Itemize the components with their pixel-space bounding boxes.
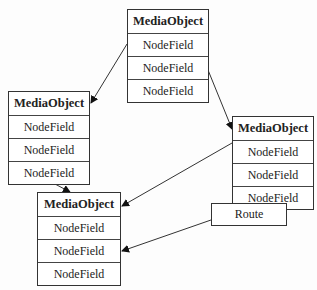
- edge-route-to-d: [122, 220, 211, 251]
- edge-a-to-c: [208, 70, 232, 129]
- node-field: NodeField: [38, 239, 120, 262]
- node-field: NodeField: [38, 216, 120, 239]
- node-field: NodeField: [128, 56, 208, 79]
- node-field: NodeField: [9, 115, 89, 138]
- node-field: NodeField: [38, 262, 120, 285]
- node-title: MediaObject: [233, 117, 313, 140]
- node-field: NodeField: [9, 138, 89, 161]
- media-object-d: MediaObject NodeField NodeField NodeFiel…: [37, 192, 121, 286]
- edge-b-to-d: [55, 184, 70, 192]
- node-title: MediaObject: [38, 193, 120, 216]
- node-title: MediaObject: [9, 92, 89, 115]
- node-field: NodeField: [128, 33, 208, 56]
- node-field: NodeField: [9, 161, 89, 184]
- node-title: MediaObject: [128, 10, 208, 33]
- route-label: Route: [235, 207, 264, 221]
- media-object-c: MediaObject NodeField NodeField NodeFiel…: [232, 116, 314, 210]
- node-field: NodeField: [233, 163, 313, 186]
- edge-a-to-b: [91, 44, 127, 103]
- media-object-b: MediaObject NodeField NodeField NodeFiel…: [8, 91, 90, 185]
- node-field: NodeField: [128, 79, 208, 102]
- route-box: Route: [211, 203, 287, 226]
- edge-c-to-d: [122, 143, 232, 206]
- media-object-a: MediaObject NodeField NodeField NodeFiel…: [127, 9, 209, 103]
- node-field: NodeField: [233, 140, 313, 163]
